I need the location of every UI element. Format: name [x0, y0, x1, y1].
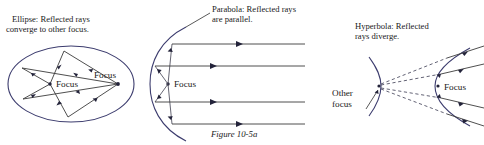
- parabola-title-line2: are parallel.: [212, 14, 253, 24]
- parabola-panel: Parabola: Reflected rays are parallel. F…: [150, 4, 305, 141]
- parabola-parallel-arrow-4: [236, 121, 243, 127]
- ellipse-focus-left-dot: [48, 82, 51, 85]
- figure-caption: Figure 10-5a: [210, 129, 258, 139]
- hyperbola-other-focus-label-line2: focus: [332, 99, 352, 109]
- ellipse-arrow-1b: [88, 69, 93, 73]
- parabola-focus-arrow-1: [168, 48, 173, 52]
- hyperbola-dashed-ray-2: [381, 74, 441, 85]
- hyperbola-incoming-ray-3: [441, 98, 484, 108]
- ellipse-panel: Ellipse: Reflected rays converge to othe…: [6, 14, 134, 122]
- hyperbola-other-focus-label-line1: Other: [332, 88, 353, 98]
- parabola-parallel-arrow-2: [210, 63, 217, 69]
- hyperbola-incoming-ray-4: [447, 114, 484, 126]
- hyperbola-other-focus-arrow: [375, 90, 379, 94]
- parabola-parallel-arrow-3: [210, 99, 217, 105]
- hyperbola-incoming-ray-2: [441, 64, 484, 74]
- parabola-focus-label: Focus: [174, 79, 196, 89]
- hyperbola-panel: Hyperbola: Reflected rays diverge. Other…: [332, 21, 484, 126]
- hyperbola-incoming-ray-1: [447, 46, 484, 58]
- figure-10-5a: Ellipse: Reflected rays converge to othe…: [0, 0, 484, 145]
- parabola-focus-ray-2: [155, 66, 168, 84]
- parabola-parallel-arrow-1: [236, 41, 243, 47]
- parabola-title-leader: [186, 13, 210, 27]
- hyperbola-dashed-ray-1: [381, 58, 447, 84]
- ellipse-focus-right-dot: [116, 82, 120, 86]
- ellipse-focus-right-label: Focus: [94, 70, 116, 80]
- ellipse-focus-left-label: Focus: [56, 79, 78, 89]
- hyperbola-dashed-ray-4: [381, 89, 447, 114]
- hyperbola-focus-label: Focus: [444, 82, 466, 92]
- parabola-focus-rays: [155, 44, 173, 124]
- hyperbola-focus-dot: [436, 84, 439, 87]
- hyperbola-other-focus-dot: [377, 84, 380, 87]
- conic-sections-reflection-diagram: Ellipse: Reflected rays converge to othe…: [0, 0, 484, 145]
- ellipse-title-line2: converge to other focus.: [6, 24, 89, 34]
- parabola-focus-arrow-4: [168, 116, 173, 120]
- hyperbola-title-line1: Hyperbola: Reflected: [355, 21, 429, 31]
- parabola-title-line1: Parabola: Reflected rays: [212, 4, 297, 14]
- hyperbola-dashed-ray-3: [381, 88, 441, 98]
- parabola-focus-arrow-3: [157, 95, 162, 99]
- parabola-focus-ray-3: [155, 84, 168, 102]
- hyperbola-title-line2: rays diverge.: [355, 31, 399, 41]
- ellipse-title-line1: Ellipse: Reflected rays: [12, 14, 90, 24]
- parabola-focus-arrow-2: [157, 69, 162, 74]
